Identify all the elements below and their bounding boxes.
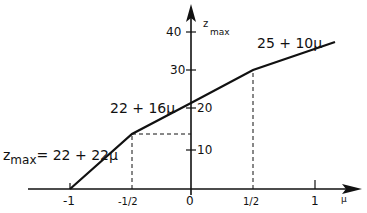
segment-label-left-expr: = 22 + 22μ xyxy=(37,147,118,163)
x-tick-0: 0 xyxy=(186,195,194,207)
y-axis-label: z xyxy=(203,14,208,30)
x-ticks xyxy=(70,180,315,189)
y-axis-label-z: z xyxy=(203,18,208,29)
x-tick-minus-1: -1 xyxy=(63,195,75,207)
y-tick-40: 40 xyxy=(166,26,181,38)
y-tick-20: 20 xyxy=(197,102,212,114)
y-axis-label-sub: max xyxy=(210,28,230,37)
x-tick-minus-half: -1/2 xyxy=(118,197,138,207)
segment-label-middle: 22 + 16μ xyxy=(110,101,175,115)
x-tick-1: 1 xyxy=(311,195,319,207)
piecewise-linear-plot xyxy=(0,0,367,213)
dashed-guides xyxy=(132,70,253,189)
segment-label-left: zmax= 22 + 22μ xyxy=(3,148,118,162)
segment-label-right: 25 + 10μ xyxy=(257,36,322,50)
y-tick-30: 30 xyxy=(170,64,185,76)
segment-label-left-sub: max xyxy=(10,153,36,167)
x-tick-half: 1/2 xyxy=(243,197,259,207)
y-tick-10: 10 xyxy=(197,144,212,156)
x-axis-label: μ xyxy=(341,195,347,204)
